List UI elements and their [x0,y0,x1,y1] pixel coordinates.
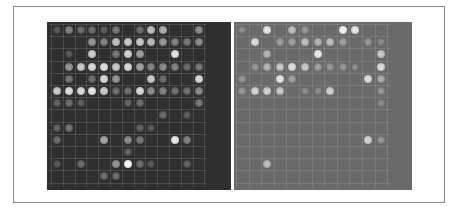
array-spot [100,136,108,144]
array-spot [326,38,334,46]
array-spot [339,63,347,71]
array-spot [124,99,132,107]
grid-line [236,24,391,25]
array-spot [147,160,155,168]
array-spot [65,50,73,58]
array-spot [65,124,73,132]
array-spot [136,124,144,132]
array-spot [112,38,120,46]
array-spot [88,38,96,46]
array-spot [65,87,73,95]
array-spot [53,160,61,168]
array-spot [100,87,108,95]
array-spot [136,160,144,168]
array-spot [88,50,96,58]
array-spot [301,87,309,95]
array-spot [88,75,96,83]
grid-line [236,109,391,110]
array-spot [88,63,96,71]
array-spot [251,87,259,95]
array-spot [364,136,372,144]
array-spot [112,26,120,34]
array-spot [112,160,120,168]
array-spot [77,26,85,34]
array-spot [288,38,296,46]
array-spot [326,63,334,71]
grid-line [236,73,391,74]
spot-grid-left [47,22,231,190]
array-spot [53,136,61,144]
array-spot [136,50,144,58]
array-spot [124,160,132,168]
array-spot [65,99,73,107]
grid-line [49,134,206,135]
array-spot [124,38,132,46]
array-spot [377,63,385,71]
array-spot [183,160,191,168]
array-spot [364,75,372,83]
grid-line [49,61,206,62]
array-spot [251,38,259,46]
grid-line [49,48,206,49]
grid-line [49,158,206,159]
array-spot [136,99,144,107]
array-spot [238,26,246,34]
array-spot [301,63,309,71]
array-spot [171,50,179,58]
array-spot [159,63,167,71]
grid-line [49,36,206,37]
array-spot [195,38,203,46]
array-spot [171,63,179,71]
array-spot [314,38,322,46]
grid-line [236,97,391,98]
array-spot [339,26,347,34]
grid-line [236,183,391,184]
array-spot [112,87,120,95]
array-spot [276,63,284,71]
array-spot [136,87,144,95]
array-spot [238,75,246,83]
array-spot [195,63,203,71]
array-spot [195,87,203,95]
grid-line [49,183,206,184]
array-spot [276,75,284,83]
array-spot [147,87,155,95]
array-spot [112,63,120,71]
array-spot [124,63,132,71]
array-spot [351,63,359,71]
array-spot [263,87,271,95]
array-spot [159,26,167,34]
array-spot [195,75,203,83]
array-spot [88,87,96,95]
array-spot [88,26,96,34]
array-spot [53,124,61,132]
array-spot [100,63,108,71]
array-spot [136,38,144,46]
array-spot [100,38,108,46]
array-spot [147,63,155,71]
array-spot [124,136,132,144]
array-spot [124,148,132,156]
array-spot [195,99,203,107]
array-spot [65,26,73,34]
array-spot [159,111,167,119]
array-spot [183,63,191,71]
array-spot [65,75,73,83]
array-spot [263,160,271,168]
array-spot [301,38,309,46]
array-spot [183,111,191,119]
array-spot [288,26,296,34]
array-spot [53,99,61,107]
array-spot [100,75,108,83]
array-spot [147,75,155,83]
spot-grid-right [234,22,412,190]
grid-line [236,146,391,147]
array-spot [314,50,322,58]
grid-line [49,122,206,123]
grid-line [236,85,391,86]
microarray-panel-left [47,22,231,190]
array-spot [276,87,284,95]
array-spot [159,87,167,95]
grid-line [236,48,391,49]
grid-line [49,146,206,147]
